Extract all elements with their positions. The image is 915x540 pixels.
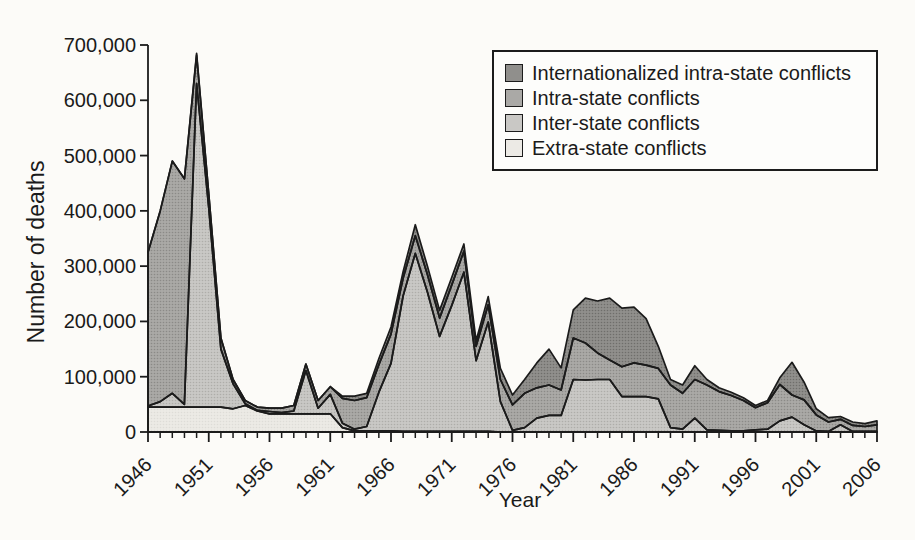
legend-label: Inter-state conflicts	[532, 113, 700, 133]
svg-text:1986: 1986	[595, 453, 642, 500]
svg-text:2001: 2001	[777, 453, 824, 500]
svg-text:1991: 1991	[656, 453, 703, 500]
inter-state-swatch-icon	[505, 114, 523, 132]
battle-deaths-figure: 0100,000200,000300,000400,000500,000600,…	[0, 0, 915, 540]
legend-item-inter-state: Inter-state conflicts	[505, 113, 870, 133]
svg-text:1966: 1966	[352, 453, 399, 500]
svg-text:1956: 1956	[230, 453, 277, 500]
svg-text:1971: 1971	[413, 453, 460, 500]
svg-text:1961: 1961	[291, 453, 338, 500]
legend: Internationalized intra-state conflicts …	[492, 50, 878, 171]
svg-text:0: 0	[125, 421, 136, 443]
extra-state-swatch-icon	[505, 139, 523, 157]
svg-text:700,000: 700,000	[64, 34, 136, 56]
legend-label: Extra-state conflicts	[532, 138, 707, 158]
intra-state-swatch-icon	[505, 89, 523, 107]
legend-item-intra-state: Intra-state conflicts	[505, 88, 870, 108]
svg-text:300,000: 300,000	[64, 255, 136, 277]
legend-label: Internationalized intra-state conflicts	[532, 63, 851, 83]
x-axis-title: Year	[499, 488, 541, 511]
svg-text:600,000: 600,000	[64, 89, 136, 111]
internationalized-intra-state-swatch-icon	[505, 64, 523, 82]
legend-item-extra-state: Extra-state conflicts	[505, 138, 870, 158]
svg-text:400,000: 400,000	[64, 200, 136, 222]
svg-text:100,000: 100,000	[64, 366, 136, 388]
legend-item-internationalized-intra-state: Internationalized intra-state conflicts	[505, 63, 870, 83]
svg-text:500,000: 500,000	[64, 145, 136, 167]
svg-text:1946: 1946	[109, 453, 156, 500]
svg-text:200,000: 200,000	[64, 310, 136, 332]
svg-text:2006: 2006	[838, 453, 885, 500]
svg-text:1996: 1996	[716, 453, 763, 500]
svg-text:1951: 1951	[170, 453, 217, 500]
legend-label: Intra-state conflicts	[532, 88, 700, 108]
y-axis-title: Number of deaths	[23, 161, 49, 344]
